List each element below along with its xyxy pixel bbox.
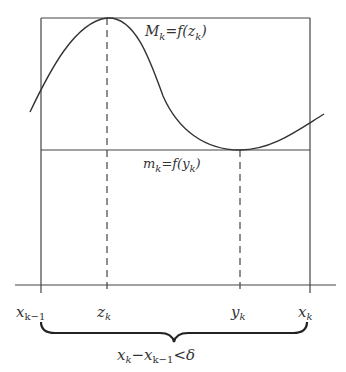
min-value-label: mk=f(yk) [143,156,201,174]
riemann-subinterval-diagram: Mk=f(zk) mk=f(yk) xk−1 zk yk xk xk−xk−1<… [0,0,346,372]
max-value-label: Mk=f(zk) [144,23,207,42]
axis-label-y-k: yk [230,303,246,322]
interval-width-label: xk−xk−1<δ [117,346,195,365]
axis-label-x-k-minus-1: xk−1 [16,303,45,322]
axis-label-z-k: zk [96,303,111,322]
underbrace [41,322,307,342]
axis-label-x-k: xk [298,303,313,322]
